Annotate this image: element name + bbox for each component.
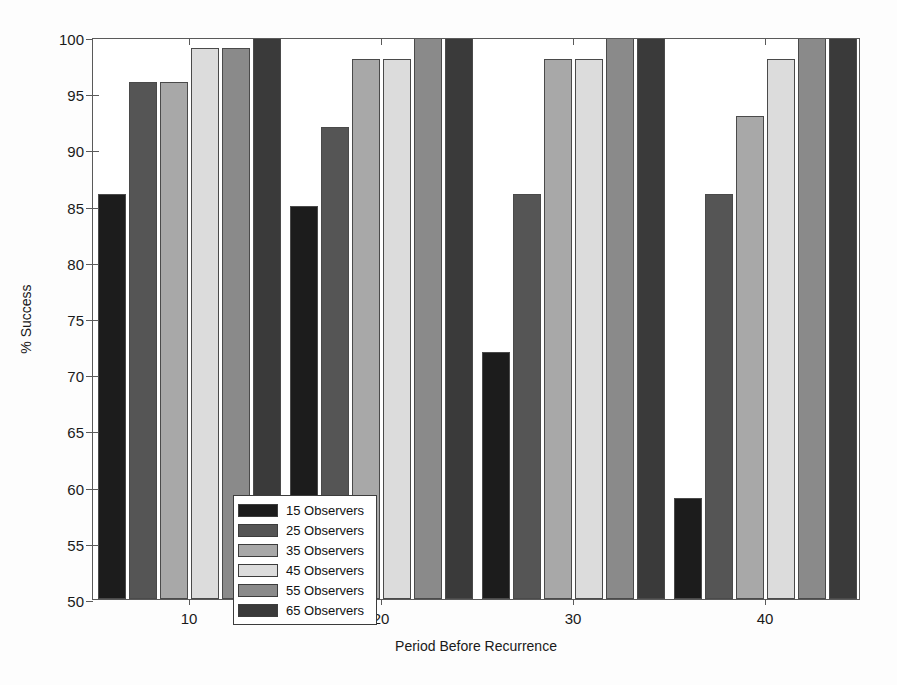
y-axis-tick-label: 50	[67, 593, 84, 610]
bar	[414, 39, 442, 599]
y-axis-tick-inner	[93, 376, 99, 377]
bar	[637, 39, 665, 599]
legend-item: 25 Observers	[238, 520, 371, 540]
legend-swatch	[238, 524, 278, 537]
legend-swatch	[238, 504, 278, 517]
x-axis-tick	[765, 599, 766, 605]
bar	[674, 498, 702, 599]
y-axis-tick-label: 85	[67, 199, 84, 216]
y-axis-tick	[86, 376, 93, 377]
y-axis-tick-label: 70	[67, 368, 84, 385]
y-axis-tick-inner	[93, 320, 99, 321]
y-axis-tick-inner	[93, 489, 99, 490]
bars-layer	[93, 39, 859, 599]
figure-canvas: 50556065707580859095100 10203040 15 Obse…	[0, 0, 897, 685]
x-axis-tick-label: 10	[181, 610, 198, 627]
bar	[606, 39, 634, 599]
bar	[798, 39, 826, 599]
y-axis-tick-inner	[93, 208, 99, 209]
bar	[544, 59, 572, 599]
legend-item: 55 Observers	[238, 580, 371, 600]
x-axis-title: Period Before Recurrence	[395, 638, 557, 654]
legend-item: 65 Observers	[238, 600, 371, 620]
y-axis-tick-label: 65	[67, 424, 84, 441]
x-axis-tick-top	[573, 39, 574, 45]
y-axis-tick-label: 60	[67, 480, 84, 497]
bar	[383, 59, 411, 599]
y-axis-tick-label: 80	[67, 255, 84, 272]
bar	[98, 194, 126, 599]
y-axis-tick-label: 55	[67, 536, 84, 553]
bar	[482, 352, 510, 599]
x-axis-tick-label: 40	[757, 610, 774, 627]
legend-swatch	[238, 544, 278, 557]
y-axis-title: % Success	[18, 284, 34, 353]
legend-item: 35 Observers	[238, 540, 371, 560]
legend-swatch	[238, 604, 278, 617]
bar	[513, 194, 541, 599]
legend-label: 55 Observers	[286, 583, 364, 598]
legend-item: 15 Observers	[238, 500, 371, 520]
bar	[191, 48, 219, 599]
bar	[736, 116, 764, 599]
bar	[445, 39, 473, 599]
y-axis-tick	[86, 489, 93, 490]
legend-label: 65 Observers	[286, 603, 364, 618]
bar	[575, 59, 603, 599]
legend-label: 35 Observers	[286, 543, 364, 558]
y-axis-tick	[86, 545, 93, 546]
legend-label: 25 Observers	[286, 523, 364, 538]
y-axis-tick-inner	[93, 95, 99, 96]
x-axis-tick	[381, 599, 382, 605]
legend-swatch	[238, 564, 278, 577]
y-axis-tick	[86, 39, 93, 40]
bar	[705, 194, 733, 599]
y-axis-tick-inner	[93, 264, 99, 265]
legend-label: 45 Observers	[286, 563, 364, 578]
y-axis-tick	[86, 264, 93, 265]
legend-label: 15 Observers	[286, 503, 364, 518]
bar	[129, 82, 157, 599]
x-axis-tick-label: 30	[565, 610, 582, 627]
bar	[767, 59, 795, 599]
y-axis-tick-label: 95	[67, 87, 84, 104]
x-axis-tick	[573, 599, 574, 605]
y-axis-tick	[86, 208, 93, 209]
legend-swatch	[238, 584, 278, 597]
x-axis-tick	[189, 599, 190, 605]
y-axis-tick	[86, 320, 93, 321]
legend-item: 45 Observers	[238, 560, 371, 580]
y-axis-tick	[86, 432, 93, 433]
y-axis-tick-inner	[93, 432, 99, 433]
y-axis-tick-inner	[93, 545, 99, 546]
y-axis-tick	[86, 95, 93, 96]
legend: 15 Observers25 Observers35 Observers45 O…	[233, 495, 377, 625]
plot-area: 50556065707580859095100 10203040 15 Obse…	[92, 38, 860, 600]
y-axis-tick-inner	[93, 151, 99, 152]
bar	[829, 39, 857, 599]
bar	[160, 82, 188, 599]
x-axis-tick-top	[189, 39, 190, 45]
x-axis-tick-top	[381, 39, 382, 45]
y-axis-tick-label: 100	[59, 31, 84, 48]
y-axis-tick-label: 75	[67, 312, 84, 329]
x-axis-tick-top	[765, 39, 766, 45]
y-axis-tick	[86, 601, 93, 602]
y-axis-tick-label: 90	[67, 143, 84, 160]
y-axis-tick	[86, 151, 93, 152]
